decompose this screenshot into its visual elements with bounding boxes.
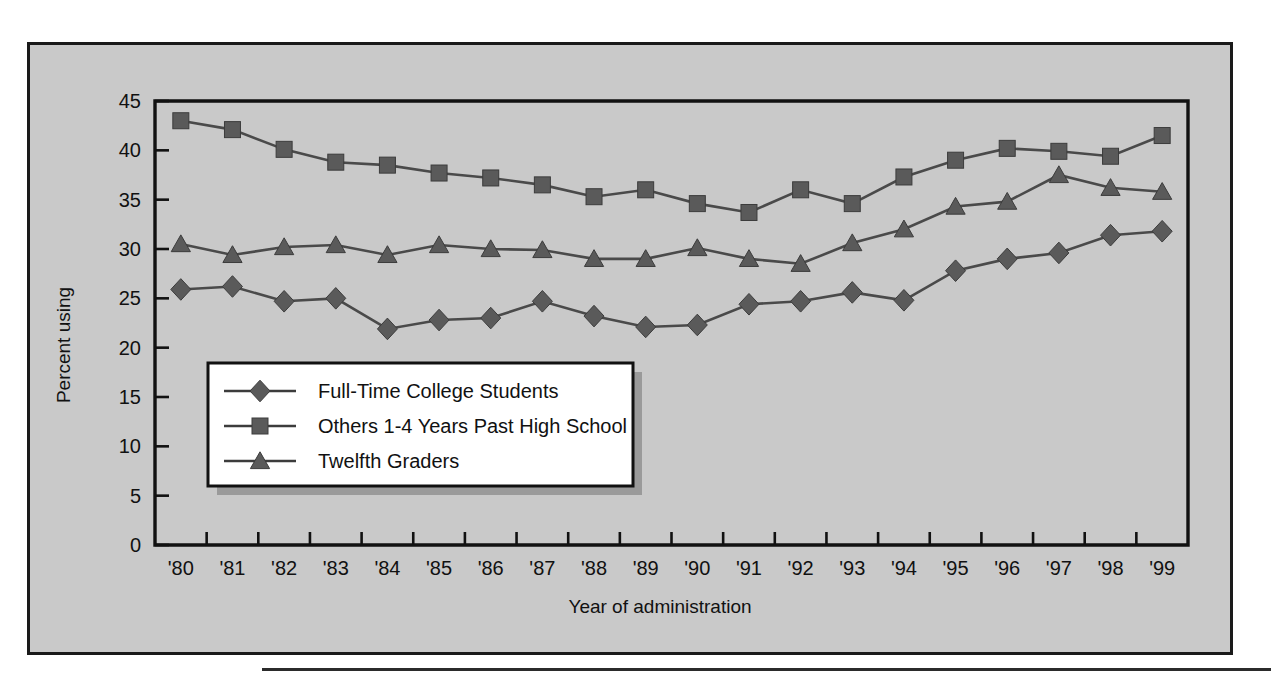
marker-diamond: [894, 290, 914, 312]
marker-square: [276, 141, 292, 157]
y-tick-label: 5: [130, 485, 141, 507]
marker-square: [173, 113, 189, 129]
marker-square: [1154, 128, 1170, 144]
marker-triangle: [998, 192, 1017, 209]
marker-diamond: [532, 290, 552, 312]
marker-diamond: [171, 279, 191, 301]
marker-triangle: [1049, 166, 1068, 183]
y-tick-label: 40: [119, 139, 141, 161]
marker-square: [948, 152, 964, 168]
marker-square: [999, 140, 1015, 156]
x-tick-label: '94: [891, 557, 917, 579]
series-square: [173, 113, 1170, 221]
marker-triangle: [429, 236, 448, 253]
x-tick-label: '84: [374, 557, 400, 579]
y-tick-label: 15: [119, 386, 141, 408]
y-tick-label: 30: [119, 238, 141, 260]
x-tick-label: '83: [323, 557, 349, 579]
marker-triangle: [688, 239, 707, 256]
marker-diamond: [946, 260, 966, 282]
x-tick-label: '81: [219, 557, 245, 579]
y-axis-tick-labels: 051015202530354045: [119, 90, 141, 556]
chart-legend[interactable]: Full-Time College StudentsOthers 1-4 Yea…: [208, 363, 642, 495]
marker-diamond: [429, 309, 449, 331]
series-triangle: [171, 166, 1172, 272]
y-tick-label: 10: [119, 435, 141, 457]
x-tick-label: '97: [1046, 557, 1072, 579]
y-tick-label: 25: [119, 287, 141, 309]
x-tick-label: '86: [478, 557, 504, 579]
marker-diamond: [481, 307, 501, 329]
legend-item-3[interactable]: Twelfth Graders: [224, 450, 459, 472]
marker-triangle: [894, 220, 913, 237]
y-axis-title: Percent using: [53, 287, 74, 403]
y-tick-label: 45: [119, 90, 141, 112]
marker-square: [1051, 143, 1067, 159]
x-tick-label: '93: [839, 557, 865, 579]
marker-diamond: [222, 276, 242, 298]
x-tick-label: '99: [1149, 557, 1175, 579]
marker-triangle: [171, 235, 190, 252]
x-tick-label: '89: [633, 557, 659, 579]
marker-square: [379, 157, 395, 173]
marker-square: [793, 182, 809, 198]
marker-diamond: [326, 288, 346, 310]
x-tick-label: '80: [168, 557, 194, 579]
x-tick-label: '85: [426, 557, 452, 579]
marker-square: [586, 189, 602, 205]
marker-diamond: [739, 293, 759, 315]
marker-square: [844, 196, 860, 212]
x-axis-title: Year of administration: [568, 596, 751, 617]
legend-item-label: Others 1-4 Years Past High School: [318, 415, 627, 437]
y-tick-label: 20: [119, 337, 141, 359]
marker-square: [638, 182, 654, 198]
marker-diamond: [687, 314, 707, 336]
marker-diamond: [636, 316, 656, 338]
marker-diamond: [1152, 220, 1172, 242]
marker-diamond: [997, 248, 1017, 270]
x-tick-label: '88: [581, 557, 607, 579]
x-tick-label: '95: [943, 557, 969, 579]
x-tick-label: '90: [684, 557, 710, 579]
legend-item-label: Twelfth Graders: [318, 450, 459, 472]
y-tick-label: 35: [119, 189, 141, 211]
x-axis-tick-labels: '80'81'82'83'84'85'86'87'88'89'90'91'92'…: [168, 557, 1175, 579]
x-tick-label: '87: [529, 557, 555, 579]
marker-square: [1103, 148, 1119, 164]
y-tick-label: 0: [130, 534, 141, 556]
marker-diamond: [1049, 242, 1069, 264]
chart-plot-area: 051015202530354045 '80'81'82'83'84'85'86…: [30, 45, 1230, 652]
marker-square: [534, 177, 550, 193]
marker-diamond: [274, 290, 294, 312]
marker-square: [252, 418, 268, 434]
marker-diamond: [584, 305, 604, 327]
marker-square: [224, 122, 240, 138]
marker-square: [741, 204, 757, 220]
marker-square: [896, 169, 912, 185]
marker-diamond: [842, 282, 862, 304]
figure-frame: 051015202530354045 '80'81'82'83'84'85'86…: [27, 42, 1233, 655]
footer-rule: [262, 668, 1271, 671]
x-tick-label: '91: [736, 557, 762, 579]
marker-square: [328, 154, 344, 170]
x-axis-ticks: [207, 532, 1137, 545]
x-tick-label: '98: [1097, 557, 1123, 579]
data-series-layer: [171, 113, 1172, 340]
marker-square: [483, 170, 499, 186]
x-tick-label: '96: [994, 557, 1020, 579]
x-tick-label: '82: [271, 557, 297, 579]
marker-square: [431, 165, 447, 181]
y-axis-ticks: [155, 101, 169, 545]
x-tick-label: '92: [788, 557, 814, 579]
marker-diamond: [791, 290, 811, 312]
marker-square: [689, 196, 705, 212]
series-diamond: [171, 220, 1172, 339]
marker-diamond: [1101, 224, 1121, 246]
legend-item-label: Full-Time College Students: [318, 380, 558, 402]
marker-diamond: [377, 318, 397, 340]
line-chart: 051015202530354045 '80'81'82'83'84'85'86…: [30, 45, 1236, 658]
